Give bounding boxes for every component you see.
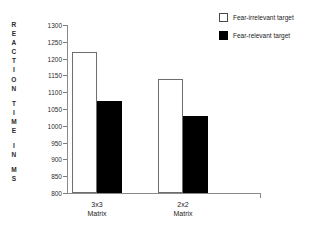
y-axis-tick: [63, 25, 67, 26]
y-axis-tick: [63, 176, 67, 177]
legend-item-label: Fear-irrelevant target: [233, 14, 294, 21]
y-axis-tick: [63, 59, 67, 60]
y-axis-tick: [63, 143, 67, 144]
y-axis-tick-label: 900: [51, 156, 62, 163]
y-axis-line: [67, 25, 68, 194]
y-axis-tick: [63, 193, 67, 194]
legend-swatch-icon: [219, 13, 228, 22]
y-axis-title-letter: N: [12, 152, 17, 161]
x-axis-group-label: 3x3Matrix: [87, 201, 106, 219]
x-axis-line: [67, 193, 261, 194]
y-axis-title-letter: N: [12, 86, 17, 95]
x-axis-group-label: 2x2Matrix: [173, 201, 192, 219]
bar-fear-relevant-2x2-matrix: [183, 116, 208, 193]
y-axis-tick-label: 800: [51, 190, 62, 197]
x-axis-group-label-line: Matrix: [173, 210, 192, 219]
y-axis-tick-label: 1050: [48, 106, 62, 113]
y-axis-tick-label: 1000: [48, 122, 62, 129]
y-axis-tick: [63, 126, 67, 127]
x-axis-group-label-line: 2x2: [173, 201, 192, 210]
y-axis-tick-label: 850: [51, 173, 62, 180]
legend-item-fear-irrelevant: Fear-irrelevant target: [219, 13, 294, 22]
y-axis-tick-label: 950: [51, 139, 62, 146]
y-axis-tick: [63, 92, 67, 93]
y-axis-tick: [63, 75, 67, 76]
plot-area: 1300125012001150110010501000950900850800…: [67, 25, 261, 194]
x-axis-endcap: [260, 193, 261, 198]
y-axis-tick: [63, 42, 67, 43]
legend-swatch-icon: [219, 31, 228, 40]
chart-legend: Fear-irrelevant targetFear-relevant targ…: [219, 13, 294, 40]
x-axis-group-label-line: Matrix: [87, 210, 106, 219]
y-axis-tick-label: 1150: [48, 72, 62, 79]
bar-fear-relevant-3x3-matrix: [97, 101, 122, 193]
y-axis-tick: [63, 159, 67, 160]
legend-item-fear-relevant: Fear-relevant target: [219, 31, 294, 40]
y-axis-tick-label: 1250: [48, 38, 62, 45]
y-axis-title-letter: S: [12, 176, 17, 185]
y-axis-tick: [63, 109, 67, 110]
y-axis-title: REACTIONTIMEINMS: [6, 22, 22, 186]
y-axis-tick-label: 1100: [48, 89, 62, 96]
bar-fear-irrelevant-3x3-matrix: [72, 52, 97, 193]
y-axis-title-letter: E: [12, 128, 17, 137]
bar-fear-irrelevant-2x2-matrix: [158, 79, 183, 193]
reaction-time-bar-chart: REACTIONTIMEINMS 13001250120011501100105…: [0, 0, 324, 235]
legend-item-label: Fear-relevant target: [233, 32, 290, 39]
y-axis-tick-label: 1300: [48, 22, 62, 29]
y-axis-tick-label: 1200: [48, 55, 62, 62]
x-axis-group-label-line: 3x3: [87, 201, 106, 210]
